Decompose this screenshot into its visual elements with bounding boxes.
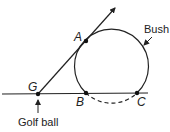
label-c: C [137,95,146,109]
bush-circle-solid-arc [75,29,149,93]
tangent-ray [38,8,115,94]
label-a: A [73,30,82,44]
label-b: B [76,95,84,109]
golf-bush-diagram: G A B C Bush Golf ball [0,0,170,132]
bush-pointer-arrow [144,37,152,45]
label-g: G [28,80,37,94]
point-b [84,91,88,95]
bush-circle-dashed-arc [86,93,137,103]
ground-line [2,93,148,94]
point-a [84,39,88,43]
golf-ball-label: Golf ball [18,116,58,128]
bush-label: Bush [144,23,169,35]
